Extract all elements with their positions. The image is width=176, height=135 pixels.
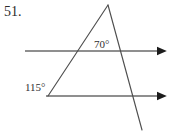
geometry-figure: 51. 70° 115°	[0, 0, 176, 135]
geometry-diagram-svg	[0, 0, 176, 135]
lower-left-angle-label: 115°	[25, 82, 46, 93]
problem-number-label: 51.	[4, 5, 22, 19]
apex-angle-label: 70°	[94, 39, 109, 50]
descending-transversal	[108, 5, 142, 130]
